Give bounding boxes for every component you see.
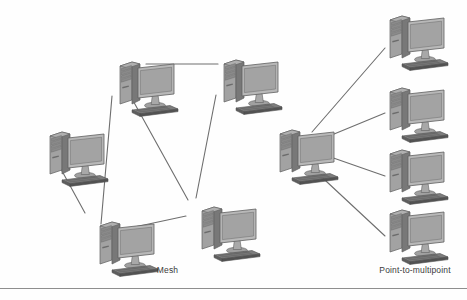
computer-mesh-top-right[interactable] [224, 60, 282, 114]
computer-ptmp-spoke-2[interactable] [390, 88, 448, 142]
computer-ptmp-spoke-4[interactable] [390, 210, 448, 264]
computer-mesh-top-left[interactable] [120, 62, 178, 116]
ptmp-link-hub-spoke-1 [312, 48, 385, 132]
mesh-link-topright-bottomright [196, 95, 216, 198]
ptmp-node-group [280, 16, 448, 264]
computer-ptmp-spoke-3[interactable] [390, 150, 448, 204]
network-topology-figure: Mesh Point-to-multipoint [0, 0, 467, 300]
computer-mesh-bottom-right[interactable] [202, 207, 260, 261]
mesh-node-group [50, 60, 282, 276]
topology-canvas [0, 0, 467, 300]
bottom-divider [0, 288, 467, 289]
computer-mesh-left[interactable] [50, 132, 108, 186]
caption-point-to-multipoint: Point-to-multipoint [250, 265, 467, 275]
computer-ptmp-hub[interactable] [280, 130, 338, 184]
computer-ptmp-spoke-1[interactable] [390, 16, 448, 70]
